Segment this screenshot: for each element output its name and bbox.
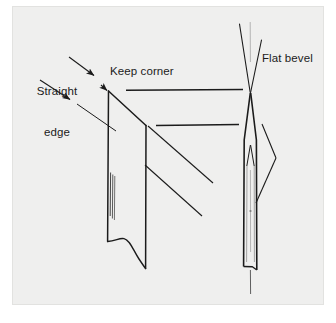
flat-bevel-v-left-arm <box>240 24 251 93</box>
right-blade-inner-chevron-right <box>251 145 255 166</box>
figure-root: Straight edge Keep corner Flat bevel <box>0 0 336 323</box>
left-blade-bottom-wavy-edge <box>108 238 146 268</box>
label-keep-corner: Keep corner <box>110 65 174 79</box>
left-blade-top-edge <box>109 91 147 126</box>
label-straight-edge-line2: edge <box>28 126 86 140</box>
leader-horizontal-lower <box>156 125 239 126</box>
leader-diagonal-lower <box>145 165 202 216</box>
label-straight-edge-line1: Straight <box>28 85 86 99</box>
leader-flat-bevel-upper <box>262 124 276 158</box>
leader-horizontal-upper <box>126 89 243 90</box>
left-blade-group <box>108 91 146 269</box>
left-blade-left-edge <box>108 91 109 242</box>
right-blade-bottom-edge <box>244 267 257 271</box>
right-blade-centre-mark <box>249 210 251 212</box>
right-blade-right-edge <box>251 93 257 270</box>
flat-bevel-v-right-arm <box>251 40 262 93</box>
label-straight-edge: Straight edge <box>28 58 86 166</box>
label-flat-bevel: Flat bevel <box>262 52 313 66</box>
leader-diagonal-upper <box>148 126 213 183</box>
right-blade-group <box>240 22 262 294</box>
right-blade-inner-chevron-left <box>247 145 251 166</box>
leader-keep-corner-arrow <box>101 85 107 91</box>
leader-flat-bevel <box>256 158 276 203</box>
